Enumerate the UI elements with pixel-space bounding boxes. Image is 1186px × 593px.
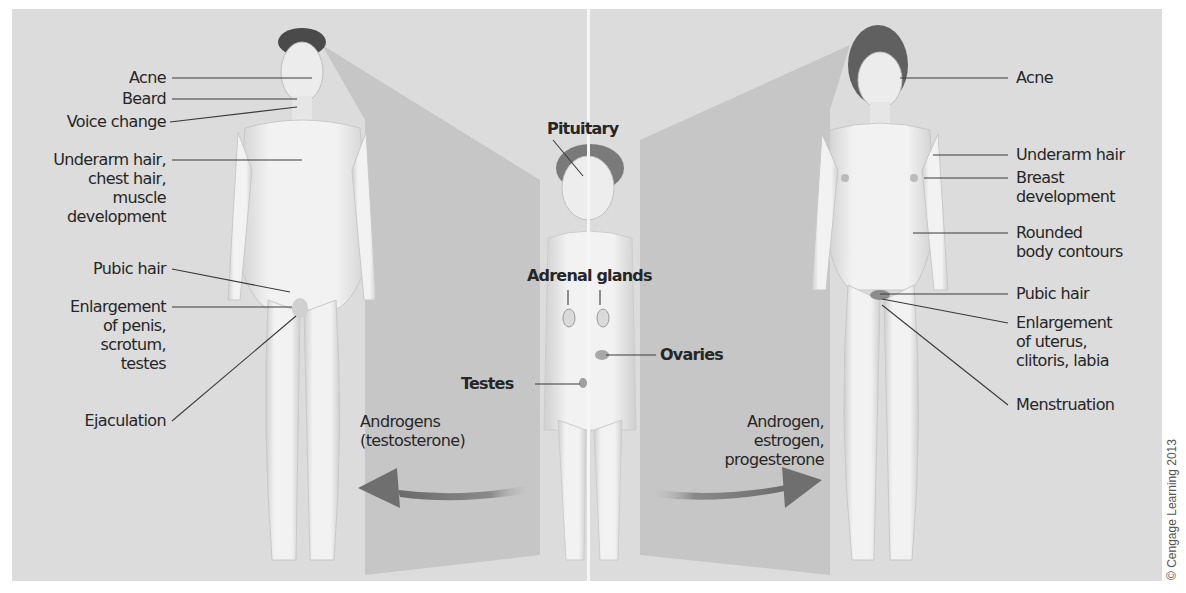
label-female-breast-development: Breast development — [1016, 168, 1115, 206]
label-pituitary: Pituitary — [547, 119, 618, 138]
label-adrenal-glands: Adrenal glands — [527, 266, 652, 285]
label-female-genital-enlargement: Enlargement of uterus, clitoris, labia — [1016, 313, 1112, 370]
label-male-voice-change: Voice change — [67, 112, 166, 131]
copyright-notice: © Cengage Learning 2013 — [1165, 439, 1179, 580]
label-female-acne: Acne — [1016, 68, 1053, 87]
label-female-hormones: Androgen, estrogen, progesterone — [725, 412, 824, 469]
label-male-ejaculation: Ejaculation — [84, 411, 166, 430]
label-androgens: Androgens (testosterone) — [360, 412, 465, 450]
puberty-illustration — [0, 0, 1186, 593]
female-figure — [812, 25, 948, 560]
label-male-beard: Beard — [122, 89, 166, 108]
label-male-acne: Acne — [129, 68, 166, 87]
label-testes: Testes — [461, 374, 513, 393]
label-male-underarm-chest-muscle: Underarm hair, chest hair, muscle develo… — [53, 150, 166, 226]
label-female-pubic-hair: Pubic hair — [1016, 284, 1089, 303]
label-female-rounded-contours: Rounded body contours — [1016, 223, 1123, 261]
label-male-genital-enlargement: Enlargement of penis, scrotum, testes — [70, 297, 166, 373]
label-male-pubic-hair: Pubic hair — [93, 259, 166, 278]
label-female-menstruation: Menstruation — [1016, 395, 1114, 414]
label-female-underarm-hair: Underarm hair — [1016, 145, 1124, 164]
male-figure — [228, 28, 376, 560]
label-ovaries: Ovaries — [660, 345, 723, 364]
